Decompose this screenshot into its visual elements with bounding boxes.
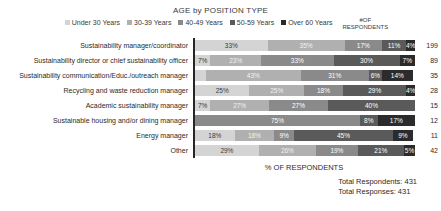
bar-segment[interactable]: 4% [406, 85, 415, 96]
legend-swatch-icon [281, 20, 286, 25]
category-label: Other [0, 143, 193, 158]
bar-segment-label: 25% [270, 87, 283, 94]
bar-segment[interactable]: 18% [235, 130, 275, 141]
bar-segment[interactable]: 27% [210, 100, 269, 111]
table-row: 29%26%19%21%5% [193, 143, 415, 158]
bar-segment[interactable]: 7% [195, 55, 210, 66]
bar-segment[interactable]: 35% [268, 40, 345, 51]
bar-segment-label: 9% [279, 132, 288, 139]
respondents-header-line2: RESPONDENTS [343, 24, 389, 31]
bar-segment[interactable]: 21% [358, 145, 404, 156]
bar-segment[interactable]: 9% [393, 130, 413, 141]
bar-segment-label: 23% [229, 57, 242, 64]
bar-segment[interactable]: 31% [301, 70, 369, 81]
bar-segment[interactable]: 40% [328, 100, 415, 111]
bar-segment[interactable]: 4% [406, 40, 415, 51]
bar-segment-label: 29% [220, 147, 233, 154]
bar-segment-label: 45% [337, 132, 350, 139]
bar-segment-label: 11% [388, 42, 401, 49]
respondents-value: 199 [415, 38, 441, 53]
bar-segment[interactable]: 27% [269, 100, 328, 111]
legend-item-label: 40-49 Years [185, 19, 222, 26]
bar-segment[interactable]: 19% [316, 145, 358, 156]
table-row: 7%23%33%30%7% [193, 53, 415, 68]
bar-segment-label: 18% [208, 132, 221, 139]
legend-row: Under 30 Years30-39 Years40-49 Years50-5… [0, 16, 441, 38]
bar-segment-label: 18% [248, 132, 261, 139]
bar-segment-label: 27% [233, 102, 246, 109]
bar-segment[interactable]: 29% [195, 145, 259, 156]
bar-segment[interactable]: 7% [195, 100, 210, 111]
bar-segment[interactable]: 30% [334, 55, 400, 66]
bar-segment-label: 4% [406, 87, 415, 94]
bar-segment-label: 35% [300, 42, 313, 49]
category-label: Energy manager [0, 128, 193, 143]
respondents-value: 89 [415, 53, 441, 68]
respondents-value: 12 [415, 113, 441, 128]
bar-segment[interactable]: 18% [304, 85, 343, 96]
legend-swatch-icon [65, 20, 70, 25]
bar-segment[interactable]: 8% [360, 115, 378, 126]
category-label: Sustainability director or chief sustain… [0, 53, 193, 68]
bar-segment[interactable]: 25% [195, 85, 249, 96]
respondents-value: 28 [415, 83, 441, 98]
table-row: 7%27%27%40% [193, 98, 415, 113]
bar-segment-label: 17% [357, 42, 370, 49]
bar-segment-label: 43% [247, 72, 260, 79]
category-label: Sustainability manager/coordinator [0, 38, 193, 53]
respondents-value: 15 [415, 98, 441, 113]
bar-segment-label: 14% [391, 72, 404, 79]
bar-segment[interactable]: 9% [274, 130, 294, 141]
bar-segment-label: 33% [291, 57, 304, 64]
bar-segment[interactable]: 25% [249, 85, 303, 96]
bar-segment-label: 7% [198, 57, 207, 64]
legend-item-label: 50-59 Years [237, 19, 274, 26]
bar-segment-label: 9% [398, 132, 407, 139]
bar-segment[interactable]: 75% [195, 115, 360, 126]
bar-segment[interactable]: 17% [378, 115, 415, 126]
bar-segment[interactable]: 11% [382, 40, 406, 51]
bar-segment-label: 18% [317, 87, 330, 94]
bar-segment-label: 75% [271, 117, 284, 124]
bar-segment[interactable]: 33% [195, 40, 268, 51]
bar-segment[interactable]: 14% [382, 70, 413, 81]
legend-item[interactable]: 30-39 Years [127, 19, 171, 26]
bar-segment[interactable]: 45% [294, 130, 393, 141]
bar-segment[interactable]: 43% [206, 70, 301, 81]
bar-segment-label: 4% [406, 42, 415, 49]
respondents-value: 11 [415, 128, 441, 143]
respondents-column-header: #OF RESPONDENTS [343, 16, 389, 31]
legend-item[interactable]: Over 60 Years [281, 19, 332, 26]
bar-segment[interactable]: 18% [195, 130, 235, 141]
bar-segment[interactable]: 7% [400, 55, 415, 66]
bar-segment[interactable] [195, 70, 206, 81]
respondents-header-line1: #OF [343, 17, 389, 24]
category-label: Sustainable housing and/or dining manage… [0, 113, 193, 128]
total-responses: Total Responses: 431 [338, 187, 417, 197]
bar-segment-label: 6% [371, 72, 380, 79]
bar-segment[interactable]: 33% [261, 55, 334, 66]
bar-segment-label: 29% [368, 87, 381, 94]
legend-item-label: Under 30 Years [72, 19, 120, 26]
legend-item[interactable]: 40-49 Years [178, 19, 222, 26]
bar-segment[interactable]: 5% [404, 145, 415, 156]
bar-segment-label: 30% [360, 57, 373, 64]
chart-legend: Under 30 Years30-39 Years40-49 Years50-5… [65, 16, 333, 26]
bar-segment[interactable]: 23% [210, 55, 261, 66]
category-label: Recycling and waste reduction manager [0, 83, 193, 98]
x-axis-title: % OF RESPONDENTS [193, 161, 415, 172]
bar-segment[interactable]: 6% [369, 70, 382, 81]
bar-segment[interactable]: 17% [345, 40, 382, 51]
bar-segment[interactable]: 26% [259, 145, 316, 156]
bar-segment-label: 17% [390, 117, 403, 124]
legend-item[interactable]: 50-59 Years [230, 19, 274, 26]
bar-segment[interactable]: 29% [343, 85, 406, 96]
bar-segment-label: 7% [198, 102, 207, 109]
legend-item-label: 30-39 Years [134, 19, 171, 26]
bar-segment-label: 7% [403, 57, 412, 64]
legend-item[interactable]: Under 30 Years [65, 19, 120, 26]
category-label: Sustainability communication/Educ./outre… [0, 68, 193, 83]
bar-segment-label: 33% [225, 42, 238, 49]
table-row: 18%18%9%45%9% [193, 128, 415, 143]
bar-segment-label: 8% [364, 117, 373, 124]
